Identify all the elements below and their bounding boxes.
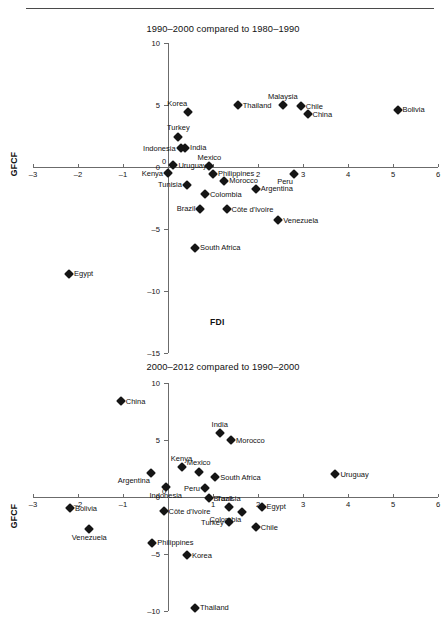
data-point-label: Korea [192, 552, 212, 560]
data-point-label: Bolivia [403, 106, 425, 114]
diamond-marker-icon [177, 462, 187, 472]
diamond-marker-icon [226, 435, 236, 445]
data-point-label: India [212, 421, 228, 429]
data-point-label: Venezuela [72, 534, 107, 542]
data-point-label: Morocco [236, 437, 265, 445]
scatter-chart-2000-2012: 2000–2012 compared to 1990–2000 –3–2–101… [0, 356, 446, 632]
data-point-label: Colombia [210, 191, 242, 199]
x-axis-tick-label: 3 [301, 170, 305, 179]
data-point-label: Malaysia [268, 93, 298, 101]
diamond-marker-icon [200, 189, 210, 199]
x-axis-tick-label: 6 [436, 500, 440, 509]
diamond-marker-icon [173, 132, 183, 142]
data-point-label: Mexico [187, 459, 211, 467]
diamond-marker-icon [233, 100, 243, 110]
data-point-label: Philippines [157, 539, 193, 547]
diamond-marker-icon [182, 550, 192, 560]
data-point-label: Indonesia [143, 145, 176, 153]
y-axis-tick-label: 10 [138, 39, 160, 48]
diamond-marker-icon [190, 603, 200, 613]
y-axis-tick [164, 353, 168, 354]
x-axis-tick-label: –2 [74, 170, 82, 179]
x-axis-tick-label: 5 [391, 500, 395, 509]
x-axis-tick-label: 4 [346, 500, 350, 509]
diamond-marker-icon [159, 506, 169, 516]
x-axis-tick [393, 164, 394, 167]
x-axis-tick-label: 4 [346, 170, 350, 179]
data-point-label: Thailand [243, 102, 272, 110]
y-axis-tick-label: 5 [138, 436, 160, 445]
header-rule [26, 8, 434, 9]
diamond-marker-icon [224, 502, 234, 512]
data-point-label: Kenya [142, 170, 163, 178]
x-axis-tick [393, 494, 394, 497]
y-axis-title: GFCF [9, 152, 19, 177]
diamond-marker-icon [163, 168, 173, 178]
data-point-label: Peru [184, 485, 200, 493]
y-axis-tick-label: –10 [138, 287, 160, 296]
diamond-marker-icon [195, 204, 205, 214]
x-axis-tick [123, 164, 124, 167]
y-axis-tick [164, 291, 168, 292]
data-point-label: South Africa [200, 244, 240, 252]
diamond-marker-icon [273, 215, 283, 225]
diamond-marker-icon [330, 469, 340, 479]
x-axis-tick [78, 494, 79, 497]
data-point-label: China [313, 111, 333, 119]
diamond-marker-icon [147, 538, 157, 548]
diamond-marker-icon [168, 160, 178, 170]
x-axis-tick [78, 164, 79, 167]
data-point-label: Uruguay [178, 162, 206, 170]
plot-area: –3–2–101234561050–5–10–15GFCFFDIKoreaTha… [0, 14, 446, 344]
data-point-label: Bolivia [75, 505, 97, 513]
y-axis-tick [164, 229, 168, 230]
data-point-label: Brazil [177, 205, 196, 213]
data-point-label: Côte d'Ivoire [232, 206, 274, 214]
y-axis-line [168, 43, 169, 353]
y-axis-tick [164, 611, 168, 612]
diamond-marker-icon [190, 243, 200, 253]
diamond-marker-icon [303, 109, 313, 119]
x-axis-tick [348, 494, 349, 497]
data-point-label: South Africa [220, 474, 260, 482]
x-axis-tick [303, 494, 304, 497]
diamond-marker-icon [210, 472, 220, 482]
y-axis-tick-label: 5 [138, 101, 160, 110]
data-point-label: Mexico [198, 154, 222, 162]
x-axis-tick-label: 5 [391, 170, 395, 179]
x-axis-tick [258, 164, 259, 167]
x-axis-tick [303, 164, 304, 167]
data-point-label: Thailand [200, 604, 229, 612]
y-axis-tick-label: –5 [138, 550, 160, 559]
diamond-marker-icon [251, 184, 261, 194]
plot-area: –3–2–101234561050–5–10GFCFChinaIndiaMoro… [0, 356, 446, 632]
diamond-marker-icon [296, 101, 306, 111]
data-point-label: Egypt [267, 503, 286, 511]
diamond-marker-icon [215, 428, 225, 438]
x-axis-tick-label: –1 [119, 170, 127, 179]
data-point-label: Turkey [167, 124, 190, 132]
y-axis-tick [164, 383, 168, 384]
x-axis-tick-label: –1 [119, 500, 127, 509]
diamond-marker-icon [222, 204, 232, 214]
y-axis-title: GFCF [9, 504, 19, 529]
x-axis-tick [348, 164, 349, 167]
y-axis-tick [164, 440, 168, 441]
scatter-chart-1990-2000: 1990–2000 compared to 1980–1990 –3–2–101… [0, 14, 446, 344]
diamond-marker-icon [278, 100, 288, 110]
x-axis-tick [258, 494, 259, 497]
x-axis-tick [33, 164, 34, 167]
data-point-label: Argentina [118, 477, 150, 485]
diamond-marker-icon [393, 105, 403, 115]
data-point-label: Tunisia [217, 495, 241, 503]
data-point-label: Côte d'Ivoire [169, 508, 211, 516]
x-axis-tick [438, 494, 439, 497]
x-axis-tick [123, 494, 124, 497]
x-axis-line [33, 167, 438, 168]
x-axis-title: FDI [210, 317, 225, 327]
x-axis-tick [438, 164, 439, 167]
diamond-marker-icon [251, 522, 261, 532]
x-axis-tick-label: 6 [436, 170, 440, 179]
data-point-label: Uruguay [340, 471, 368, 479]
data-point-label: Egypt [74, 270, 93, 278]
